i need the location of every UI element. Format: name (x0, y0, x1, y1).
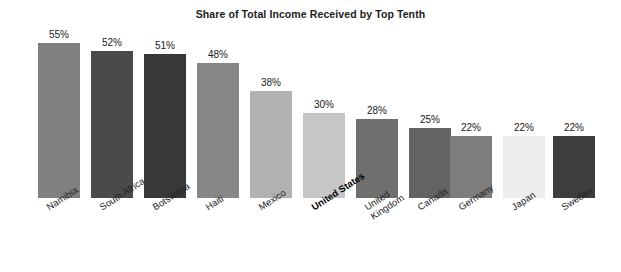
bar-value-label: 22% (461, 123, 481, 133)
bar (91, 51, 133, 198)
bar-value-label: 22% (514, 123, 534, 133)
bar (144, 54, 186, 198)
x-axis-labels: NamibiaSouth AfricaBotswanaHaitiMexicoUn… (0, 198, 621, 272)
bar-group: 52% (91, 51, 133, 198)
bar-chart: Share of Total Income Received by Top Te… (0, 0, 621, 272)
bar-group: 55% (38, 43, 80, 198)
bar-value-label: 30% (314, 100, 334, 110)
bar (250, 91, 292, 198)
bar-group: 38% (250, 91, 292, 198)
bar-value-label: 25% (420, 115, 440, 125)
bar-group: 51% (144, 54, 186, 198)
bar-group: 22% (503, 136, 545, 198)
plot-area: 55%52%51%48%38%30%28%25%22%22%22% (0, 0, 621, 198)
bar (197, 63, 239, 198)
bar-value-label: 38% (261, 78, 281, 88)
bar-group: 48% (197, 63, 239, 198)
bar-value-label: 22% (564, 123, 584, 133)
bar-value-label: 51% (155, 41, 175, 51)
bar (503, 136, 545, 198)
bar-value-label: 28% (367, 106, 387, 116)
bar-value-label: 48% (208, 50, 228, 60)
bar (38, 43, 80, 198)
bar-value-label: 55% (49, 30, 69, 40)
bar-value-label: 52% (102, 38, 122, 48)
